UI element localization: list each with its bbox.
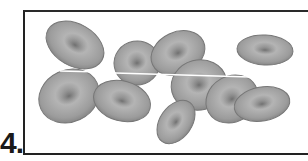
blood-cell [236, 34, 293, 67]
figure-frame [23, 10, 308, 155]
red-blood-cells-illustration [0, 0, 308, 161]
